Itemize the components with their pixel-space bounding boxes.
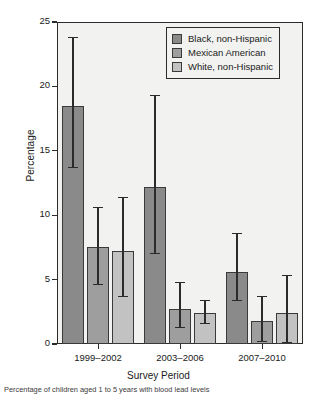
x-axis-tick-label: 2007–2010 (238, 352, 286, 363)
y-tick-label: 5 (45, 273, 50, 284)
error-bar-line (236, 233, 237, 300)
error-bar-cap-upper (150, 95, 160, 96)
y-tick-label: 10 (39, 208, 50, 219)
error-bar-line (97, 207, 98, 284)
chart-legend: Black, non-HispanicMexican AmericanWhite… (166, 27, 280, 79)
legend-swatch-icon (172, 34, 182, 44)
error-bar-line (154, 95, 155, 253)
error-bar-cap-upper (93, 207, 103, 208)
error-bar-cap-upper (257, 296, 267, 297)
x-tick-mark (262, 344, 263, 349)
error-bar-line (122, 197, 123, 296)
error-bar-cap-upper (232, 233, 242, 234)
error-bar-line (179, 282, 180, 327)
x-axis-tick-label: 1999–2002 (74, 352, 122, 363)
legend-item: Mexican American (172, 46, 273, 60)
x-axis-tick-label: 2003–2006 (156, 352, 204, 363)
figure: Percentage 0510152025 1999–20022003–2006… (0, 0, 317, 394)
y-tick-label: 25 (39, 15, 50, 26)
y-tick-label: 20 (39, 79, 50, 90)
error-bar-cap-upper (282, 275, 292, 276)
error-bar-cap-lower (118, 296, 128, 297)
legend-item-label: Mexican American (188, 48, 266, 58)
error-bar-line (72, 37, 73, 167)
y-tick-label: 0 (45, 337, 50, 348)
error-bar-line (261, 296, 262, 341)
error-bar-cap-lower (282, 342, 292, 343)
error-bar-cap-lower (68, 167, 78, 168)
x-tick-mark (180, 344, 181, 349)
legend-swatch-icon (172, 48, 182, 58)
x-axis-title: Survey Period (0, 370, 317, 381)
error-bar-cap-lower (175, 327, 185, 328)
legend-item: Black, non-Hispanic (172, 32, 273, 46)
error-bar-cap-lower (200, 323, 210, 324)
figure-caption: Percentage of children aged 1 to 5 years… (4, 385, 317, 394)
error-bar-cap-upper (200, 300, 210, 301)
error-bar-cap-lower (93, 284, 103, 285)
error-bar-cap-lower (257, 341, 267, 342)
legend-item: White, non-Hispanic (172, 60, 273, 74)
error-bar-cap-upper (118, 197, 128, 198)
y-axis-title: Percentage (25, 96, 36, 216)
error-bar-cap-upper (68, 37, 78, 38)
error-bar-line (204, 300, 205, 323)
legend-item-label: Black, non-Hispanic (188, 34, 272, 44)
error-bar-cap-upper (175, 282, 185, 283)
legend-item-label: White, non-Hispanic (188, 62, 273, 72)
error-bar-cap-lower (232, 300, 242, 301)
legend-swatch-icon (172, 62, 182, 72)
error-bar-line (286, 276, 287, 343)
x-tick-mark (98, 344, 99, 349)
y-tick-label: 15 (39, 144, 50, 155)
error-bar-cap-lower (150, 253, 160, 254)
